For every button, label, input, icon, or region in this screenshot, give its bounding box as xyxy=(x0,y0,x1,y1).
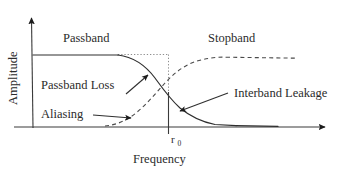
cutoff-frequency-marker: r 0 xyxy=(169,92,182,148)
aliasing-label: Aliasing xyxy=(41,107,84,121)
passband-loss-leader-arrow xyxy=(126,75,148,94)
passband-tail xyxy=(236,126,278,127)
diagram-canvas: r 0 Amplitude Frequency Passband Stopban… xyxy=(0,0,348,172)
passband-region-label: Passband xyxy=(63,31,110,45)
interband-leakage-label: Interband Leakage xyxy=(234,86,328,100)
interband-leakage-leader-arrow xyxy=(180,93,228,111)
filter-response-diagram: r 0 Amplitude Frequency Passband Stopban… xyxy=(0,0,348,172)
interband-leakage-annotation: Interband Leakage xyxy=(180,86,328,111)
stopband-region-label: Stopband xyxy=(208,31,256,45)
cutoff-label-subscript: 0 xyxy=(178,139,182,148)
cutoff-label: r xyxy=(171,133,175,145)
stopband-plateau xyxy=(226,57,297,58)
passband-rolloff xyxy=(118,55,236,126)
x-axis-label: Frequency xyxy=(133,152,187,166)
passband-loss-annotation: Passband Loss xyxy=(41,75,148,94)
y-axis-label: Amplitude xyxy=(6,51,20,105)
aliasing-leader-arrow xyxy=(93,115,131,118)
y-axis xyxy=(32,18,34,128)
passband-loss-label: Passband Loss xyxy=(41,78,114,92)
aliasing-annotation: Aliasing xyxy=(41,107,131,121)
